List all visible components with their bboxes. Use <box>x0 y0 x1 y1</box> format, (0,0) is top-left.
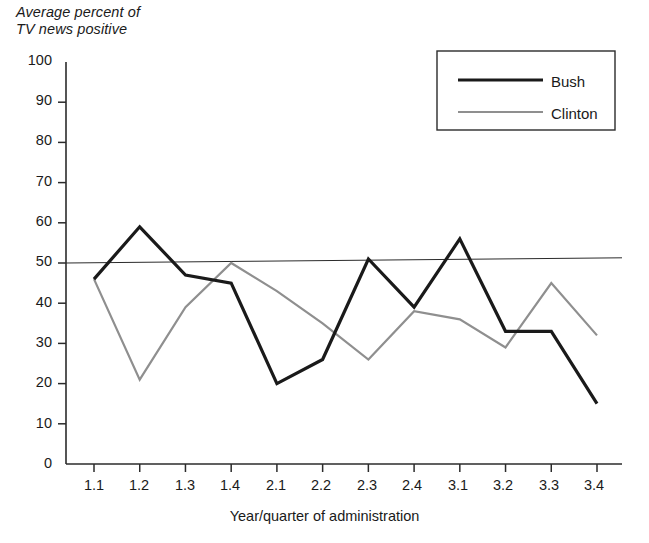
trend-line <box>66 258 622 263</box>
legend-border <box>437 51 615 130</box>
legend-box <box>437 51 615 130</box>
series-line-bush <box>94 227 597 404</box>
x-axis-ticks <box>94 464 597 472</box>
y-axis-ticks <box>58 102 66 424</box>
series-line-clinton <box>94 263 597 380</box>
chart-container: Average percent of TV news positive Year… <box>0 0 649 543</box>
axis-lines <box>66 62 622 464</box>
plot-area <box>0 0 649 543</box>
